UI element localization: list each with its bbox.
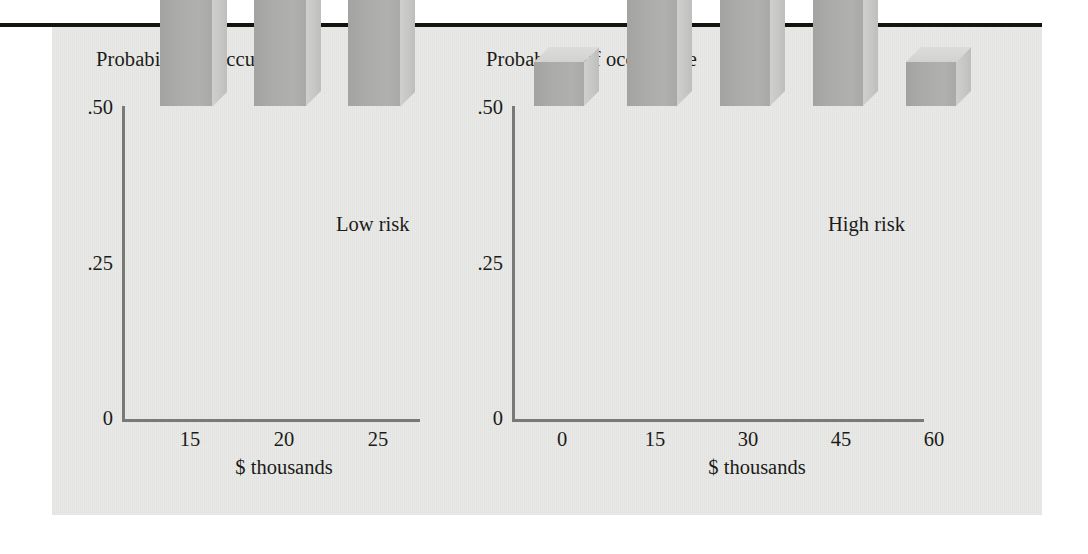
x-tick-label-low-risk-1: 20 bbox=[274, 428, 295, 451]
bar-front-face bbox=[160, 0, 212, 106]
bar-high-risk-4 bbox=[906, 62, 956, 106]
x-tick-label-high-risk-1: 15 bbox=[645, 428, 666, 451]
x-axis-title-low-risk: $ thousands bbox=[235, 456, 332, 479]
bar-low-risk-0 bbox=[160, 0, 212, 106]
x-tick-label-low-risk-2: 25 bbox=[368, 428, 389, 451]
x-tick-label-high-risk-2: 30 bbox=[738, 428, 759, 451]
x-tick-label-low-risk-0: 15 bbox=[180, 428, 201, 451]
bar-front-face bbox=[534, 62, 584, 106]
bar-side-face bbox=[212, 0, 227, 106]
bar-high-risk-3 bbox=[813, 0, 863, 106]
y-tick-label-0-high-risk: 0 bbox=[493, 407, 503, 430]
bar-side-face bbox=[400, 0, 415, 106]
y-axis-high-risk bbox=[512, 106, 515, 422]
bar-front-face bbox=[254, 0, 306, 106]
bar-low-risk-2 bbox=[348, 0, 400, 106]
bar-front-face bbox=[813, 0, 863, 106]
bar-high-risk-1 bbox=[627, 0, 677, 106]
chart-low-risk: Probability of occurrence Low risk .50 .… bbox=[86, 48, 446, 498]
bar-side-face bbox=[306, 0, 321, 106]
bar-front-face bbox=[348, 0, 400, 106]
bar-front-face bbox=[720, 0, 770, 106]
series-label-high-risk: High risk bbox=[828, 213, 905, 236]
bar-front-face bbox=[627, 0, 677, 106]
y-tick-label-0-low-risk: 0 bbox=[103, 407, 113, 430]
x-tick-label-high-risk-4: 60 bbox=[924, 428, 945, 451]
chart-high-risk: Probability of occurrence High risk .50 … bbox=[476, 48, 946, 498]
bar-high-risk-2 bbox=[720, 0, 770, 106]
figure-container: Probability of occurrence Low risk .50 .… bbox=[0, 0, 1088, 554]
bar-side-face bbox=[677, 0, 692, 106]
bar-high-risk-0 bbox=[534, 62, 584, 106]
x-axis-high-risk bbox=[512, 419, 924, 422]
bar-front-face bbox=[906, 62, 956, 106]
y-tick-label-50-high-risk: .50 bbox=[477, 96, 503, 119]
bar-low-risk-1 bbox=[254, 0, 306, 106]
x-axis-title-high-risk: $ thousands bbox=[708, 456, 805, 479]
x-tick-label-high-risk-3: 45 bbox=[831, 428, 852, 451]
series-label-low-risk: Low risk bbox=[336, 213, 409, 236]
x-tick-label-high-risk-0: 0 bbox=[557, 428, 567, 451]
y-tick-label-25-high-risk: .25 bbox=[477, 252, 503, 275]
y-axis-low-risk bbox=[122, 106, 125, 422]
bar-side-face bbox=[863, 0, 878, 106]
x-axis-low-risk bbox=[122, 419, 420, 422]
y-tick-label-25-low-risk: .25 bbox=[87, 252, 113, 275]
y-tick-label-50-low-risk: .50 bbox=[87, 96, 113, 119]
bar-side-face bbox=[770, 0, 785, 106]
